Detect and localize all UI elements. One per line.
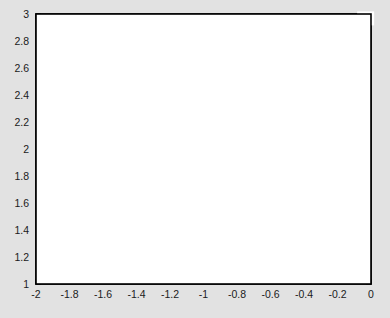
y-tick-label: 1 <box>23 278 29 290</box>
y-tick-label: 3 <box>23 8 29 20</box>
y-tick-label: 2.6 <box>14 62 29 74</box>
y-tick-label: 2.8 <box>14 35 29 47</box>
plot-frame-overlay <box>36 14 371 284</box>
x-tick-label: -0.4 <box>295 288 313 300</box>
x-tick-label: -0.8 <box>228 288 246 300</box>
y-tick-label: 1.2 <box>14 251 29 263</box>
contour-plot-figure: -2-1.8-1.6-1.4-1.2-1-0.8-0.6-0.4-0.2011.… <box>0 0 390 318</box>
y-tick-label: 2.4 <box>14 89 29 101</box>
x-tick-label: -1.8 <box>60 288 78 300</box>
x-tick-label: -2 <box>31 288 40 300</box>
y-tick-label: 2 <box>23 143 29 155</box>
y-tick-label: 1.8 <box>14 170 29 182</box>
x-tick-label: -1.2 <box>161 288 179 300</box>
x-tick-label: -0.2 <box>328 288 346 300</box>
x-tick-label: -0.6 <box>261 288 279 300</box>
x-tick-label: -1.6 <box>94 288 112 300</box>
x-tick-label: -1 <box>199 288 208 300</box>
y-tick-label: 1.6 <box>14 197 29 209</box>
x-tick-label: 0 <box>368 288 374 300</box>
plot-canvas: -2-1.8-1.6-1.4-1.2-1-0.8-0.6-0.4-0.2011.… <box>0 0 390 318</box>
y-tick-label: 1.4 <box>14 224 29 236</box>
y-tick-label: 2.2 <box>14 116 29 128</box>
x-tick-label: -1.4 <box>127 288 145 300</box>
